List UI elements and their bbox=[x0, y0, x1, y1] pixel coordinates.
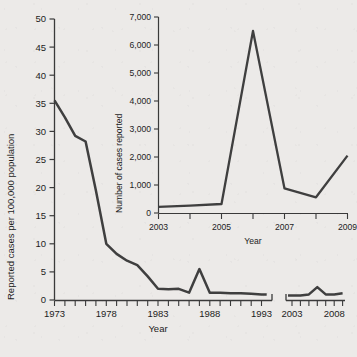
main-ytick-30: 30 bbox=[35, 126, 46, 137]
main-ytick-35: 35 bbox=[35, 98, 46, 109]
inset-ytick-7000: 7,000 bbox=[129, 12, 151, 22]
main-y-axis-title: Reported cases per 100,000 population bbox=[5, 134, 16, 300]
main-x-axis-title: Year bbox=[148, 323, 167, 334]
main-xtick-2003: 2003 bbox=[281, 308, 302, 319]
inset-y-axis-title: Number of cases reported bbox=[114, 113, 124, 213]
main-x-ticks-right bbox=[292, 301, 343, 307]
main-xtick-1993: 1993 bbox=[251, 308, 272, 319]
inset-ytick-5000: 5,000 bbox=[129, 68, 151, 78]
main-series-right bbox=[288, 287, 343, 295]
inset-xtick-2005: 2005 bbox=[212, 222, 231, 232]
main-ytick-25: 25 bbox=[35, 154, 46, 165]
inset-chart: Number of cases reported 0 1,000 2,000 3… bbox=[114, 12, 357, 246]
main-y-tick-labels: 0 5 10 15 20 25 30 35 40 45 50 bbox=[35, 13, 46, 305]
inset-x-ticks bbox=[159, 214, 348, 220]
main-xtick-1988: 1988 bbox=[199, 308, 220, 319]
inset-ytick-3000: 3,000 bbox=[129, 124, 151, 134]
inset-ytick-0: 0 bbox=[146, 208, 151, 218]
inset-xtick-2009: 2009 bbox=[338, 222, 357, 232]
main-ytick-20: 20 bbox=[35, 182, 46, 193]
inset-ytick-4000: 4,000 bbox=[129, 96, 151, 106]
inset-y-tick-labels: 0 1,000 2,000 3,000 4,000 5,000 6,000 7,… bbox=[129, 12, 151, 218]
main-ytick-5: 5 bbox=[41, 266, 46, 277]
main-ytick-50: 50 bbox=[35, 13, 46, 24]
main-y-ticks bbox=[50, 19, 55, 300]
main-ytick-0: 0 bbox=[41, 294, 46, 305]
main-chart: Reported cases per 100,000 population 0 bbox=[5, 13, 345, 334]
figure-container: Reported cases per 100,000 population 0 bbox=[0, 0, 357, 357]
inset-ytick-2000: 2,000 bbox=[129, 152, 151, 162]
inset-x-axis-title: Year bbox=[244, 236, 262, 246]
inset-xtick-2003: 2003 bbox=[149, 222, 168, 232]
main-xtick-1978: 1978 bbox=[96, 308, 117, 319]
main-xtick-2008: 2008 bbox=[324, 308, 345, 319]
inset-ytick-6000: 6,000 bbox=[129, 40, 151, 50]
main-xtick-1983: 1983 bbox=[147, 308, 168, 319]
main-ytick-15: 15 bbox=[35, 210, 46, 221]
main-ytick-10: 10 bbox=[35, 238, 46, 249]
main-xtick-1973: 1973 bbox=[44, 308, 65, 319]
main-ytick-40: 40 bbox=[35, 70, 46, 81]
inset-x-tick-labels: 2003 2005 2007 2009 bbox=[149, 222, 357, 232]
main-ytick-45: 45 bbox=[35, 42, 46, 53]
main-x-tick-labels: 1973 1978 1983 1988 1993 2003 2008 bbox=[44, 308, 345, 319]
main-x-ticks-left bbox=[55, 301, 262, 307]
combined-chart: Reported cases per 100,000 population 0 bbox=[0, 0, 357, 357]
inset-series bbox=[159, 31, 348, 207]
inset-y-ticks bbox=[154, 17, 159, 213]
inset-ytick-1000: 1,000 bbox=[129, 180, 151, 190]
inset-xtick-2007: 2007 bbox=[275, 222, 294, 232]
